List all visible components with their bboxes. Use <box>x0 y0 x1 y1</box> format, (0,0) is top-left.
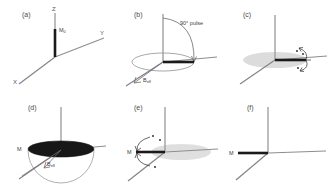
spin-dot-2-c <box>302 53 304 55</box>
x-axis-e <box>128 152 165 181</box>
panel-d-label: (d) <box>28 104 37 112</box>
panel-b-label: (b) <box>134 11 143 19</box>
panel-f-label: (f) <box>247 104 254 112</box>
y-axis-label-a: Y <box>100 30 104 36</box>
refocus-arrowhead-lower-e <box>135 153 141 158</box>
y-axis-a <box>55 38 104 57</box>
m-label-e: M <box>127 149 132 155</box>
panel-f: (f) M <box>223 93 335 186</box>
refocus-arrow-upper-e <box>137 137 150 151</box>
spin-dot-2-e <box>159 139 161 141</box>
panel-c: (c) <box>223 0 335 93</box>
magnetization-disc-d <box>28 141 94 157</box>
x-axis-a <box>19 57 55 84</box>
x-axis-f <box>236 153 268 180</box>
panel-e: (e) M <box>112 93 224 186</box>
y-axis-f <box>268 151 326 153</box>
spin-dot-3-e <box>154 166 156 168</box>
m-label-f: M <box>229 150 234 156</box>
z-axis-label-a: Z <box>52 6 56 12</box>
panel-d: (d) M Beff <box>0 93 112 186</box>
refocus-arrow-lower-e <box>137 153 150 166</box>
panel-b: (b) 90° pulse Beff <box>112 0 224 93</box>
beff-label-b: Beff <box>143 77 152 84</box>
spin-dot-1-c <box>296 50 298 52</box>
refocus-arrowhead-upper-e <box>135 146 141 151</box>
panel-c-label: (c) <box>243 11 251 19</box>
panel-e-label: (e) <box>134 104 143 112</box>
pulse-label-b: 90° pulse <box>180 20 203 26</box>
panel-a-label: (a) <box>22 11 31 19</box>
m-label-d: M <box>17 146 22 152</box>
spin-dot-1-e <box>152 135 154 137</box>
panel-a: (a) Z Y X M0 <box>0 0 112 93</box>
m0-label-a: M0 <box>59 27 66 34</box>
figure-panel-grid: (a) Z Y X M0 (b) <box>0 0 335 186</box>
spin-dot-3-c <box>297 67 299 69</box>
x-axis-label-a: X <box>13 79 17 85</box>
